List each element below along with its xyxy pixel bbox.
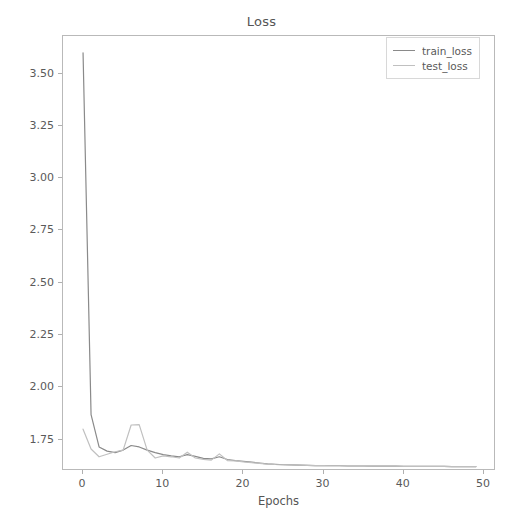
legend-label-train-loss: train_loss <box>422 45 472 57</box>
y-tick-label: 2.50 <box>10 275 54 288</box>
plot-area <box>62 35 495 470</box>
x-tick-label: 20 <box>222 477 262 490</box>
y-tick-label: 2.00 <box>10 380 54 393</box>
legend-item-test-loss: test_loss <box>393 58 472 73</box>
x-axis-label: Epochs <box>62 494 495 508</box>
legend-item-train-loss: train_loss <box>393 43 472 58</box>
line-test-loss <box>83 425 476 467</box>
line-train-loss <box>83 53 476 467</box>
y-tick-label: 2.75 <box>10 223 54 236</box>
x-tick-label: 0 <box>62 477 102 490</box>
x-tick-label: 10 <box>142 477 182 490</box>
legend-swatch-test-loss <box>393 65 415 66</box>
chart-title: Loss <box>0 14 523 29</box>
chart-legend: train_loss test_loss <box>386 37 480 79</box>
y-tick-label: 1.75 <box>10 432 54 445</box>
x-tick-label: 50 <box>463 477 503 490</box>
legend-swatch-train-loss <box>393 50 415 51</box>
figure-canvas: Loss 1.752.002.252.502.753.003.253.50 01… <box>0 0 523 528</box>
plot-lines <box>63 36 496 471</box>
y-tick-label: 3.50 <box>10 66 54 79</box>
x-tick-label: 40 <box>383 477 423 490</box>
x-tick-label: 30 <box>303 477 343 490</box>
y-tick-label: 3.00 <box>10 171 54 184</box>
y-tick-label: 3.25 <box>10 118 54 131</box>
y-tick-label: 2.25 <box>10 328 54 341</box>
legend-label-test-loss: test_loss <box>422 60 468 72</box>
